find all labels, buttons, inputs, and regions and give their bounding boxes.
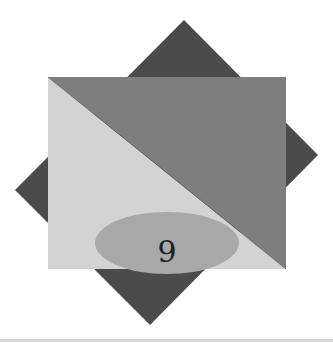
decorative-emblem: 9: [0, 0, 333, 342]
number-label: 9: [157, 234, 176, 269]
